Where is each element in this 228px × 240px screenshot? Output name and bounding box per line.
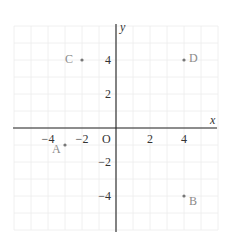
x-tick-label: 2	[147, 132, 153, 146]
x-tick-label: 4	[181, 132, 187, 146]
point-c-label: C	[65, 52, 73, 66]
point-b-label: B	[189, 194, 197, 208]
y-tick-label: 2	[105, 87, 111, 101]
y-tick-label: −4	[98, 189, 111, 203]
point-d-label: D	[189, 51, 198, 65]
origin-label: O	[102, 132, 111, 146]
point-c-marker	[80, 58, 83, 61]
point-a-marker	[63, 143, 66, 146]
y-axis-label: y	[119, 20, 126, 34]
data-points: ABCD	[52, 51, 198, 208]
point-b-marker	[182, 194, 185, 197]
y-tick-label: 4	[105, 53, 111, 67]
coordinate-plane: x y O −4−22442−2−4 ABCD	[0, 0, 228, 240]
y-tick-label: −2	[98, 155, 111, 169]
x-axis-label: x	[209, 113, 216, 127]
x-tick-label: −2	[76, 132, 89, 146]
point-a-label: A	[52, 142, 61, 156]
point-d-marker	[182, 58, 185, 61]
